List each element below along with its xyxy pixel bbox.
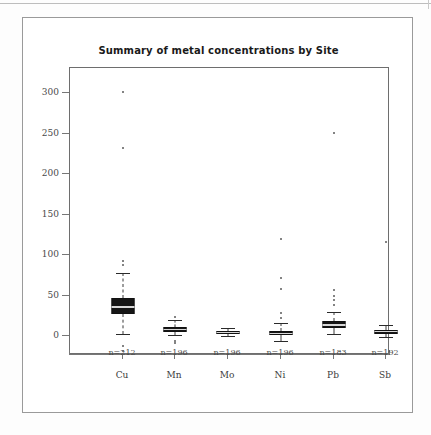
y-axis-tick-label: 150 xyxy=(42,209,59,219)
y-axis-tick-label: 200 xyxy=(42,168,59,178)
y-axis-tick-label: 300 xyxy=(42,87,59,97)
whisker-cap-upper xyxy=(379,325,393,326)
y-axis-tick-label: 100 xyxy=(42,249,59,259)
figure-frame: Summary of metal concentrations by Site … xyxy=(22,17,413,413)
x-axis-tick-label: Mn xyxy=(166,370,181,380)
y-axis: 300250200150100500 xyxy=(23,18,69,354)
y-axis-tick-label: 250 xyxy=(42,128,59,138)
y-axis-tick xyxy=(62,254,69,255)
group-count-label: n=183 xyxy=(319,348,346,357)
y-axis-tick xyxy=(62,295,69,296)
x-axis-end-cap xyxy=(69,350,70,355)
y-axis-tick xyxy=(62,133,69,134)
chart-title: Summary of metal concentrations by Site xyxy=(23,45,414,56)
y-axis-tick xyxy=(62,214,69,215)
group-count-label: n=196 xyxy=(160,348,187,357)
x-axis-tick-label: Cu xyxy=(116,370,129,380)
y-axis-tick-label: 50 xyxy=(48,290,59,300)
x-axis-tick-label: Ni xyxy=(275,370,286,380)
x-axis-tick-label: Mo xyxy=(220,370,235,380)
plot-panel xyxy=(69,67,389,354)
x-axis: n=212Cun=196Mnn=196Mon=196Nin=183Pbn=192… xyxy=(23,354,414,414)
median-line xyxy=(375,331,398,332)
x-axis-tick-label: Pb xyxy=(327,370,339,380)
page-top-rule xyxy=(0,3,431,4)
page-corner-tick xyxy=(428,0,429,9)
group-count-label: n=196 xyxy=(213,348,240,357)
group-count-label: n=196 xyxy=(266,348,293,357)
outlier-point xyxy=(385,241,387,243)
y-axis-tick-label: 0 xyxy=(53,330,59,340)
group-count-label: n=192 xyxy=(371,348,398,357)
boxplot-group-sb xyxy=(70,68,390,355)
y-axis-tick xyxy=(62,173,69,174)
whisker-cap-lower xyxy=(379,337,393,338)
x-axis-tick-label: Sb xyxy=(379,370,391,380)
page-canvas: Summary of metal concentrations by Site … xyxy=(0,0,431,435)
group-count-label: n=212 xyxy=(108,348,135,357)
y-axis-tick xyxy=(62,92,69,93)
y-axis-tick xyxy=(62,335,69,336)
